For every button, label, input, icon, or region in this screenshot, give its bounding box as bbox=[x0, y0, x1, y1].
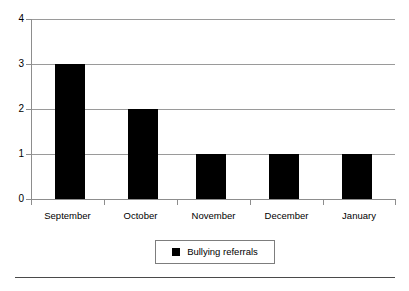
x-tick-4 bbox=[323, 199, 324, 205]
legend-swatch-icon bbox=[172, 248, 180, 256]
chart-legend: Bullying referrals bbox=[155, 240, 275, 264]
y-tick-label-wrap-3: 3 bbox=[0, 59, 24, 69]
x-label-november: November bbox=[177, 210, 250, 222]
bar-november bbox=[196, 154, 226, 199]
x-tick-0 bbox=[31, 199, 32, 205]
gridline-2 bbox=[31, 109, 395, 110]
x-axis-line bbox=[31, 199, 395, 200]
plot-area bbox=[31, 19, 395, 199]
x-label-january: January bbox=[323, 210, 395, 222]
x-tick-2 bbox=[177, 199, 178, 205]
bar-september bbox=[55, 64, 85, 199]
y-tick-label-1: 1 bbox=[2, 149, 24, 159]
x-tick-5 bbox=[395, 199, 396, 205]
bar-october bbox=[128, 109, 158, 199]
y-tick-label-2: 2 bbox=[2, 104, 24, 114]
y-tick-label-wrap-0: 0 bbox=[0, 194, 24, 204]
x-label-december: December bbox=[250, 210, 323, 222]
y-tick-label-wrap-1: 1 bbox=[0, 149, 24, 159]
y-tick-label-0: 0 bbox=[2, 194, 24, 204]
x-label-october: October bbox=[104, 210, 177, 222]
y-tick-label-wrap-2: 2 bbox=[0, 104, 24, 114]
y-tick-1 bbox=[26, 154, 32, 155]
gridline-4 bbox=[31, 19, 395, 20]
gridline-3 bbox=[31, 64, 395, 65]
bar-december bbox=[269, 154, 299, 199]
bar-january bbox=[342, 154, 372, 199]
x-tick-1 bbox=[104, 199, 105, 205]
y-tick-label-4: 4 bbox=[2, 14, 24, 24]
y-tick-label-wrap-4: 4 bbox=[0, 14, 24, 24]
y-tick-label-3: 3 bbox=[2, 59, 24, 69]
y-tick-4 bbox=[26, 19, 32, 20]
x-label-september: September bbox=[31, 210, 104, 222]
footer-rule bbox=[15, 277, 395, 278]
x-tick-3 bbox=[250, 199, 251, 205]
legend-label-bullying-referrals: Bullying referrals bbox=[187, 247, 258, 257]
bar-chart-figure: 4 3 2 1 0 September October November Dec… bbox=[0, 0, 409, 291]
y-tick-3 bbox=[26, 64, 32, 65]
y-tick-2 bbox=[26, 109, 32, 110]
